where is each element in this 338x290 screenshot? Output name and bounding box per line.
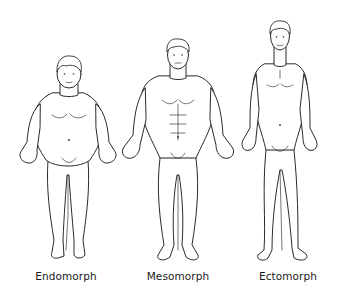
ectomorph-label: Ectomorph	[238, 270, 338, 282]
ectomorph-figure: Ectomorph	[0, 0, 338, 290]
